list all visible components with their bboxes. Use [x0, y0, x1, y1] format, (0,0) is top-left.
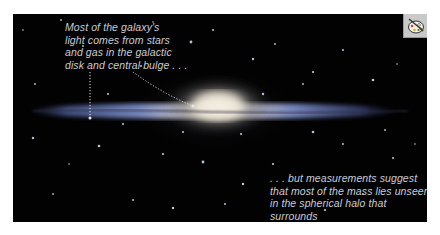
star [98, 145, 101, 148]
star [52, 193, 54, 195]
star [342, 49, 344, 51]
star [396, 63, 398, 65]
leader-dot-bulge [192, 105, 195, 108]
star [342, 143, 344, 145]
star [384, 129, 386, 131]
caption-halo: . . . but measurements suggest that most… [270, 172, 427, 222]
star [202, 161, 205, 164]
art-icon-button[interactable] [403, 14, 427, 38]
star [60, 19, 62, 21]
leader-dot-disk [89, 117, 92, 120]
star [274, 43, 276, 45]
caption-disk-bulge: Most of the galaxy's light comes from st… [65, 21, 215, 71]
star [302, 83, 304, 85]
bulge-core [192, 92, 244, 120]
star [262, 93, 264, 95]
star [312, 71, 314, 73]
star [414, 143, 416, 145]
galaxy-figure: Most of the galaxy's light comes from st… [13, 14, 427, 222]
star [122, 123, 124, 125]
star [32, 137, 34, 139]
star [392, 157, 394, 159]
star [372, 79, 375, 82]
star [242, 183, 244, 185]
star [272, 163, 274, 165]
star [68, 163, 70, 165]
star [182, 131, 184, 133]
star [224, 203, 226, 205]
star [172, 207, 174, 209]
star [34, 83, 36, 85]
star [240, 133, 242, 135]
star [252, 58, 254, 60]
star [22, 29, 24, 31]
palette-brush-icon [406, 16, 426, 36]
star [132, 199, 134, 201]
star [312, 131, 315, 134]
star [107, 93, 109, 95]
star [162, 153, 164, 155]
